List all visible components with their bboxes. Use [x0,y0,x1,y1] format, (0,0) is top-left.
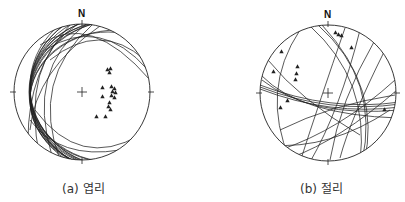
caption-a: (a) 엽리 [62,179,105,196]
caption-b: (b) 절리 [300,179,343,196]
tick-marks-a [10,20,154,164]
stereonet-b [256,21,400,165]
stereonet-a [10,4,230,178]
north-label-b: N [324,9,331,20]
poles-a [94,66,117,118]
stereonet-figure [0,0,405,202]
poles-b [271,30,386,111]
great-circles-b [260,25,400,162]
north-label-a: N [78,8,85,19]
great-circles-a [28,4,230,178]
